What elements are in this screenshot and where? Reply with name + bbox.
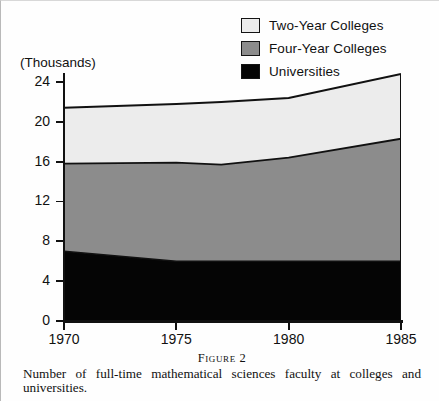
y-axis-tick-label: 24 [4,73,50,89]
y-axis-tick-label: 8 [4,232,50,248]
y-axis-tick-label: 4 [4,272,50,288]
legend-swatch-two-year-colleges [241,18,260,33]
y-axis-tick-label: 12 [4,192,50,208]
x-axis-tick-label: 1980 [259,331,319,347]
x-axis-tick-label: 1975 [146,331,206,347]
figure-caption: Figure 2 Number of full-time mathematica… [23,351,421,396]
stacked-area-chart [64,73,401,321]
x-axis-tick [288,322,290,330]
x-axis-tick [175,322,177,330]
x-axis-tick [400,322,402,330]
legend-item-two-year-colleges: Two-Year Colleges [241,15,387,36]
figure-caption-text: Number of full-time mathematical science… [23,367,421,396]
y-axis-tick-label: 0 [4,312,50,328]
figure-page: Two-Year Colleges Four-Year Colleges Uni… [0,0,439,401]
y-axis-tick [56,280,64,282]
y-axis-tick [56,121,64,123]
legend-item-four-year-colleges: Four-Year Colleges [241,38,387,59]
y-axis-tick [56,161,64,163]
y-axis-line [63,73,65,323]
y-axis-title: (Thousands) [20,55,96,70]
x-axis-tick-label: 1970 [34,331,94,347]
legend-swatch-four-year-colleges [241,41,260,56]
y-axis-tick-label: 20 [4,113,50,129]
x-axis-tick [63,322,65,330]
plot-area [64,73,401,321]
legend-label-four-year-colleges: Four-Year Colleges [269,41,387,56]
y-axis-tick [56,81,64,83]
legend-label-two-year-colleges: Two-Year Colleges [269,18,384,33]
x-axis-tick-label: 1985 [371,331,431,347]
figure-number: Figure 2 [23,351,421,366]
x-axis-line [63,320,403,323]
y-axis-tick [56,240,64,242]
y-axis-tick [56,201,64,203]
y-axis-tick-label: 16 [4,153,50,169]
